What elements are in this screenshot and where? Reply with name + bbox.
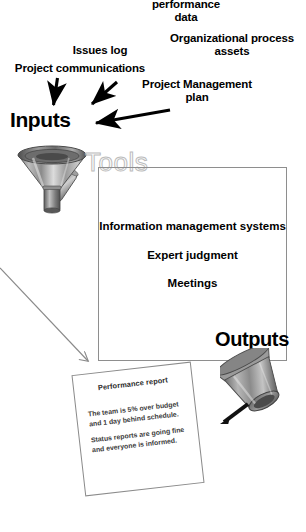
label-project-management-plan: Project Management plan — [133, 78, 261, 104]
label-issues-log: Issues log — [52, 44, 148, 57]
performance-report-title: Performance report — [74, 373, 192, 395]
performance-report-paragraph-2: Status reports are going fine and everyo… — [90, 424, 196, 456]
label-organizational-process-assets: Organizational process assets — [160, 32, 304, 58]
arrow-project-management-plan — [96, 110, 170, 123]
performance-report-document: Performance report The team is 5% over b… — [71, 362, 204, 497]
arrow-project-communications — [54, 78, 58, 105]
inverted-funnel-icon — [220, 348, 292, 424]
tools-and-techniques-list: Information management systems Expert ju… — [99, 220, 286, 291]
label-project-communications: Project communications — [6, 62, 154, 75]
diagram-canvas: performance data Issues log Organization… — [0, 0, 306, 532]
arrow-issues-log — [92, 82, 117, 104]
tool-item-information-management-systems: Information management systems — [99, 220, 286, 234]
arrow-output-flow — [220, 404, 248, 424]
funnel-icon — [14, 142, 90, 216]
label-work-performance-data: performance data — [128, 0, 244, 24]
heading-inputs: Inputs — [10, 108, 94, 132]
tool-item-meetings: Meetings — [99, 277, 286, 291]
arrow-to-performance-report — [0, 268, 88, 361]
tool-item-expert-judgment: Expert judgment — [99, 249, 286, 263]
